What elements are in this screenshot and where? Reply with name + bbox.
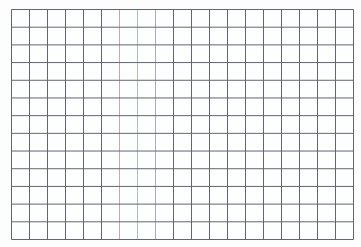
graph-paper-sheet: [0, 0, 361, 247]
paper-fill: [11, 9, 354, 240]
grid-lines: [11, 9, 354, 240]
